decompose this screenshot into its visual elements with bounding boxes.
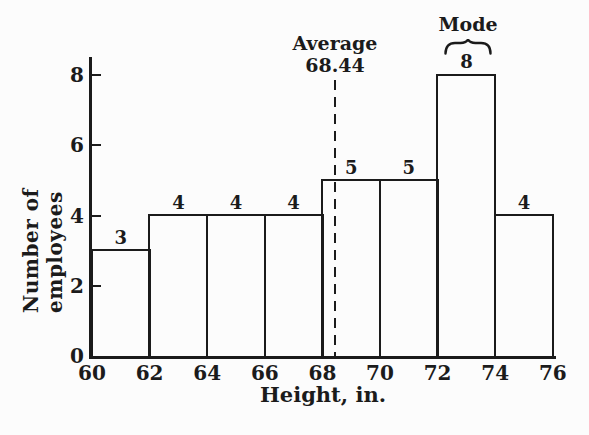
mode-annotation: Mode <box>418 13 518 35</box>
histogram-bar <box>379 179 439 358</box>
y-tick-label: 2 <box>56 274 84 298</box>
y-tick-mark <box>92 74 101 76</box>
histogram-bar <box>206 214 266 358</box>
average-annotation: Average 68.44 <box>275 32 395 76</box>
bar-value-label: 4 <box>163 192 193 213</box>
bar-value-label: 5 <box>394 157 424 178</box>
histogram-bar <box>91 249 151 358</box>
histogram-bar <box>148 214 208 358</box>
mode-brace-icon <box>444 39 492 55</box>
x-tick-label: 72 <box>421 361 455 385</box>
x-tick-label: 60 <box>75 361 109 385</box>
bar-value-label: 4 <box>279 192 309 213</box>
bar-value-label: 5 <box>336 157 366 178</box>
bar-value-label: 4 <box>221 192 251 213</box>
histogram-bar <box>494 214 554 358</box>
y-tick-label: 8 <box>56 63 84 87</box>
y-tick-mark <box>92 215 101 217</box>
average-label: Average <box>275 32 395 54</box>
x-tick-label: 76 <box>536 361 570 385</box>
histogram-figure: Number of employees 02468606264666870727… <box>0 0 589 435</box>
average-dashed-line <box>334 80 336 356</box>
histogram-bar <box>321 179 381 358</box>
y-tick-label: 4 <box>56 204 84 228</box>
y-tick-label: 6 <box>56 133 84 157</box>
histogram-bar <box>264 214 324 358</box>
x-axis-title: Height, in. <box>253 382 393 407</box>
x-tick-label: 74 <box>478 361 512 385</box>
x-tick-label: 64 <box>190 361 224 385</box>
average-value: 68.44 <box>275 54 395 76</box>
mode-label: Mode <box>418 13 518 35</box>
bar-value-label: 3 <box>106 227 136 248</box>
x-tick-label: 62 <box>133 361 167 385</box>
histogram-bar <box>436 74 496 358</box>
y-tick-mark <box>92 144 101 146</box>
bar-value-label: 4 <box>509 192 539 213</box>
